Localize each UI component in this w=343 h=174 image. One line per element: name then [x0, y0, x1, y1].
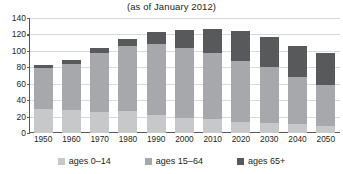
x-axis-labels: 1950196019701980199020002010202020302040… [29, 134, 340, 148]
legend-swatch-icon-young [58, 158, 65, 165]
x-axis-label-1990: 1990 [147, 134, 166, 148]
bar-segment-work [175, 48, 194, 119]
x-axis-label-2040: 2040 [288, 134, 307, 148]
y-axis-tick-label: 60 [17, 79, 26, 89]
bar-segment-old [147, 32, 166, 44]
bar-1990[interactable] [147, 32, 166, 133]
bar-segment-old [316, 53, 335, 84]
bar-segment-old [260, 37, 279, 67]
bar-2000[interactable] [175, 30, 194, 133]
bar-segment-old [288, 46, 307, 77]
legend-label: ages 65+ [248, 156, 285, 166]
bar-segment-work [34, 68, 53, 109]
bar-segment-young [175, 118, 194, 133]
bar-1960[interactable] [62, 60, 81, 133]
bar-segment-work [118, 46, 137, 111]
x-axis-label-1980: 1980 [118, 134, 137, 148]
bar-segment-young [118, 111, 137, 133]
bar-1970[interactable] [90, 48, 109, 133]
y-axis-tick-label: 80 [17, 62, 26, 72]
bar-segment-young [62, 110, 81, 133]
bar-segment-old [175, 30, 194, 48]
legend-swatch-icon-work [145, 158, 152, 165]
bar-segment-work [316, 85, 335, 126]
x-axis-label-2010: 2010 [203, 134, 222, 148]
bar-1980[interactable] [118, 39, 137, 133]
chart-legend: ages 0–14ages 15–64ages 65+ [0, 152, 343, 170]
bar-segment-work [288, 77, 307, 124]
x-axis-label-2000: 2000 [175, 134, 194, 148]
bar-segment-young [34, 109, 53, 133]
bar-segment-work [260, 67, 279, 123]
plot-area: 140120100806040200 [29, 18, 340, 133]
y-axis-tick-label: 40 [17, 95, 26, 105]
bar-segment-young [203, 119, 222, 133]
legend-label: ages 15–64 [156, 156, 203, 166]
bar-segment-work [231, 61, 250, 122]
bar-segment-young [231, 122, 250, 134]
bar-segment-work [62, 64, 81, 110]
bar-segment-young [316, 126, 335, 133]
bar-segment-young [147, 115, 166, 133]
bar-2030[interactable] [260, 37, 279, 133]
legend-swatch-icon-old [237, 158, 244, 165]
legend-item-young[interactable]: ages 0–14 [58, 156, 111, 166]
bar-segment-work [90, 53, 109, 112]
y-axis-tick-label: 140 [12, 13, 26, 23]
bar-segment-young [260, 123, 279, 133]
y-axis-tick-label: 20 [17, 112, 26, 122]
x-axis-label-1970: 1970 [90, 134, 109, 148]
legend-item-old[interactable]: ages 65+ [237, 156, 285, 166]
x-axis-label-1950: 1950 [34, 134, 53, 148]
bar-segment-young [288, 124, 307, 133]
x-axis-label-2050: 2050 [316, 134, 335, 148]
bar-1950[interactable] [34, 65, 53, 133]
bar-2050[interactable] [316, 53, 335, 133]
bar-segment-old [118, 39, 137, 46]
y-axis-tick-label: 120 [12, 29, 26, 39]
bar-segment-young [90, 112, 109, 133]
x-axis-label-2030: 2030 [260, 134, 279, 148]
legend-label: ages 0–14 [69, 156, 111, 166]
bar-segment-work [203, 53, 222, 120]
x-axis-label-1960: 1960 [62, 134, 81, 148]
bar-2010[interactable] [203, 29, 222, 133]
y-axis-tick-label: 100 [12, 46, 26, 56]
bar-group [29, 18, 340, 133]
x-axis-label-2020: 2020 [231, 134, 250, 148]
bar-segment-work [147, 44, 166, 115]
legend-item-work[interactable]: ages 15–64 [145, 156, 203, 166]
bar-segment-old [203, 29, 222, 53]
bar-2020[interactable] [231, 31, 250, 133]
bar-segment-old [231, 31, 250, 61]
chart-title: (as of January 2012) [0, 1, 343, 12]
bar-2040[interactable] [288, 46, 307, 133]
y-axis-tick-label: 0 [21, 128, 26, 138]
chart-container: (as of January 2012) 140120100806040200 … [0, 0, 343, 174]
